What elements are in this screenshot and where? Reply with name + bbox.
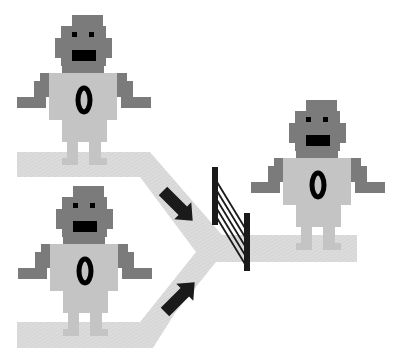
top-input-robot <box>17 15 151 165</box>
gate-left-post <box>212 167 218 225</box>
merge-diagram: 0 0 0 <box>0 0 396 356</box>
output-robot <box>251 100 385 250</box>
gate-right-post <box>244 213 250 271</box>
bottom-input-robot <box>18 186 152 336</box>
